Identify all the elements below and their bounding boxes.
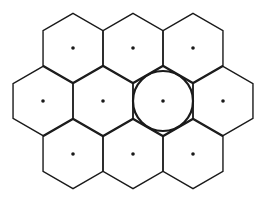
center-dot-cell-r2-c4 — [221, 99, 225, 103]
center-dot-cell-r2-c1 — [41, 99, 45, 103]
center-dot-cell-r2-c2 — [101, 99, 105, 103]
center-dot-cell-r1-c3 — [191, 46, 195, 50]
center-dot-cell-r1-c2 — [131, 46, 135, 50]
hexagon-cell-diagram — [0, 0, 269, 201]
center-dot-cell-r3-c1 — [71, 152, 75, 156]
center-dot-cell-r3-c3 — [191, 152, 195, 156]
center-dot-cell-r2-c3 — [161, 99, 165, 103]
center-dot-cell-r1-c1 — [71, 46, 75, 50]
center-dot-cell-r3-c2 — [131, 152, 135, 156]
